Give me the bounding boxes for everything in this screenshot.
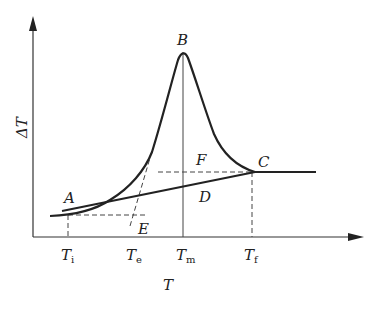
- dta-diagram: B A C D E F ΔT T T i T e T m T f: [0, 0, 376, 313]
- label-a: A: [62, 189, 75, 207]
- label-c: C: [258, 153, 270, 171]
- tick-tm: T m: [176, 246, 196, 265]
- tick-tf: T f: [244, 246, 259, 265]
- y-axis-label: ΔT: [13, 116, 31, 139]
- y-axis-arrow-icon: [29, 16, 37, 31]
- x-axis-label: T: [163, 276, 174, 294]
- label-b: B: [176, 31, 188, 49]
- dashed-guides: [68, 158, 255, 237]
- baseline-ad-c: [62, 172, 255, 211]
- svg-text:e: e: [136, 254, 142, 265]
- svg-text:i: i: [71, 254, 74, 265]
- svg-text:f: f: [254, 254, 259, 265]
- x-axis-arrow-icon: [348, 233, 364, 241]
- label-d: D: [198, 188, 211, 206]
- label-e: E: [137, 220, 149, 238]
- tick-ti: T i: [61, 246, 74, 265]
- svg-text:m: m: [186, 254, 196, 265]
- label-f: F: [195, 151, 207, 169]
- tick-te: T e: [126, 246, 142, 265]
